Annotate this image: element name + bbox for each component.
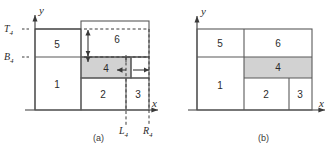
panel-a-label-4: 4 [103, 63, 109, 74]
panel-a-y-axis-label: y [38, 4, 44, 16]
panel-b-label-4: 4 [275, 62, 281, 73]
panel-b-label-2: 2 [263, 89, 269, 100]
panel-a-label-5: 5 [54, 39, 60, 50]
panel-b-label-1: 1 [217, 80, 223, 91]
panel-a-label-6: 6 [114, 34, 120, 45]
panel-b-caption: (b) [258, 133, 269, 143]
panel-b-label-5: 5 [217, 38, 223, 49]
panel-a-x-axis-label: x [151, 97, 157, 109]
panel-b-label-6: 6 [275, 38, 281, 49]
panel-b-label-3: 3 [297, 89, 303, 100]
figure-svg: 5 1 6 4 2 3 y x T4 B4 L4 R4 [0, 0, 334, 156]
panel-b-y-axis-label: y [200, 5, 206, 17]
panel-a-label-2: 2 [100, 89, 106, 100]
panel-a-label-3: 3 [135, 89, 141, 100]
panel-a-label-1: 1 [54, 79, 60, 90]
figure-container: 5 1 6 4 2 3 y x T4 B4 L4 R4 [0, 0, 334, 156]
panel-b-x-axis-label: x [318, 97, 324, 109]
panel-a-caption: (a) [93, 133, 104, 143]
